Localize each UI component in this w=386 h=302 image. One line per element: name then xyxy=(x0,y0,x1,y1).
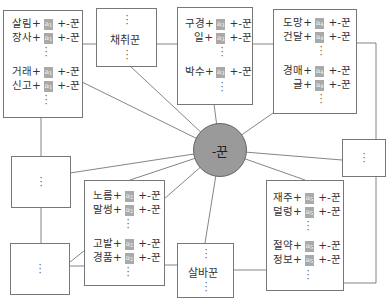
word-row: 재주+a5+-꾼 xyxy=(273,191,341,204)
word-row: 구경+a3+-꾼 xyxy=(185,17,252,30)
ellipsis-icon: ··· xyxy=(217,81,227,93)
variable-tag: a1 xyxy=(44,19,53,30)
word-row: 노름+a2+-꾼 xyxy=(93,189,161,202)
stem-word: 글+ xyxy=(282,78,312,90)
stem-word: 살림+ xyxy=(12,17,41,29)
stem-word: 거래+ xyxy=(12,65,41,77)
suffix: +-꾼 xyxy=(328,64,351,76)
variable-tag: a5 xyxy=(305,193,314,204)
word-row: 절약+a5+-꾼 xyxy=(273,239,341,252)
stem-word: 구경+ xyxy=(185,17,213,29)
ellipsis-icon: ··· xyxy=(201,281,211,293)
suffix: +-꾼 xyxy=(318,205,341,217)
ellipsis-icon: ··· xyxy=(316,93,326,105)
ellipsis-icon: ··· xyxy=(36,176,46,188)
word-row: 살림+a1+-꾼 xyxy=(12,17,80,30)
stem-word: 일+ xyxy=(185,31,213,43)
word-row: 박수+a3+-꾼 xyxy=(185,65,252,78)
group-box-left-bottom-ellipsis: ··· xyxy=(10,243,70,295)
stem-word: 경품+ xyxy=(93,251,122,263)
word-row: 고발+a2+-꾼 xyxy=(93,237,161,250)
suffix: +-꾼 xyxy=(229,17,252,29)
suffix: +-꾼 xyxy=(138,237,161,249)
ellipsis-icon: ··· xyxy=(123,266,133,278)
ellipsis-icon: ··· xyxy=(123,218,133,230)
variable-tag: a2 xyxy=(125,191,134,202)
suffix: +-꾼 xyxy=(57,31,80,43)
suffix: +-꾼 xyxy=(229,65,252,77)
stem-word: 신고+ xyxy=(12,79,41,91)
variable-tag: a2 xyxy=(125,239,134,250)
suffix: +-꾼 xyxy=(318,191,341,203)
word-row: 건달+a4+-꾼 xyxy=(282,30,351,43)
center-label: -꾼 xyxy=(212,141,229,160)
variable-tag: a4 xyxy=(315,18,324,29)
stem-word: 고발+ xyxy=(93,237,122,249)
word-label: 살바꾼 xyxy=(188,264,218,280)
suffix: +-꾼 xyxy=(328,30,351,42)
stem-word: 정보+ xyxy=(273,253,302,265)
suffix: +-꾼 xyxy=(318,253,341,265)
stem-word: 노름+ xyxy=(93,189,122,201)
group-box-chaechwi: ··· 채취꾼 ··· xyxy=(96,8,157,67)
group-box-right-ellipsis: ··· xyxy=(342,139,386,177)
suffix: +-꾼 xyxy=(138,203,161,215)
ellipsis-icon: ··· xyxy=(201,248,211,260)
group-box-a3: 구경+a3+-꾼 일+a3+-꾼 ··· 박수+a3+-꾼 ··· xyxy=(177,7,253,105)
ellipsis-icon: ··· xyxy=(122,49,132,61)
stem-word: 덜렁+ xyxy=(273,205,302,217)
group-box-a4: 도망+a4+-꾼 건달+a4+-꾼 ··· 경매+a4+-꾼 글+a4+-꾼 ·… xyxy=(273,9,357,114)
suffix: +-꾼 xyxy=(328,78,351,90)
word-row: 글+a4+-꾼 xyxy=(282,78,351,91)
center-node: -꾼 xyxy=(193,123,247,177)
variable-tag: a1 xyxy=(44,67,53,78)
suffix: +-꾼 xyxy=(57,65,80,77)
ellipsis-icon: ··· xyxy=(41,46,51,58)
suffix: +-꾼 xyxy=(138,251,161,263)
group-box-a2: 노름+a2+-꾼 말썽+a2+-꾼 ··· 고발+a2+-꾼 경품+a2+-꾼 … xyxy=(84,180,165,286)
suffix: +-꾼 xyxy=(229,31,252,43)
group-box-a1: 살림+a1+-꾼 장사+a1+-꾼 ··· 거래+a1+-꾼 신고+a1+-꾼 … xyxy=(3,10,83,118)
word-row: 경매+a4+-꾼 xyxy=(282,64,351,77)
stem-word: 박수+ xyxy=(185,65,213,77)
suffix: +-꾼 xyxy=(328,16,351,28)
word-row: 일+a3+-꾼 xyxy=(185,31,252,44)
variable-tag: a3 xyxy=(216,19,225,30)
ellipsis-icon: ··· xyxy=(41,94,51,106)
group-box-salba: ··· 살바꾼 ··· xyxy=(177,243,234,298)
suffix: +-꾼 xyxy=(318,239,341,251)
suffix: +-꾼 xyxy=(57,17,80,29)
group-box-a5: 재주+a5+-꾼 덜렁+a5+-꾼 ··· 절약+a5+-꾼 정보+a5+-꾼 … xyxy=(266,180,344,291)
stem-word: 재주+ xyxy=(273,191,302,203)
ellipsis-icon: ··· xyxy=(316,45,326,57)
ellipsis-icon: ··· xyxy=(122,14,132,26)
ellipsis-icon: ··· xyxy=(217,46,227,58)
stem-word: 장사+ xyxy=(12,31,41,43)
word-row: 도망+a4+-꾼 xyxy=(282,16,351,29)
group-box-left-mid-ellipsis: ··· xyxy=(11,156,71,208)
stem-word: 건달+ xyxy=(282,30,312,42)
stem-word: 경매+ xyxy=(282,64,312,76)
ellipsis-icon: ··· xyxy=(303,220,313,232)
variable-tag: a4 xyxy=(315,66,324,77)
stem-word: 도망+ xyxy=(282,16,312,28)
variable-tag: a5 xyxy=(305,241,314,252)
stem-word: 절약+ xyxy=(273,239,302,251)
suffix: +-꾼 xyxy=(57,79,80,91)
stem-word: 말썽+ xyxy=(93,203,122,215)
ellipsis-icon: ··· xyxy=(359,152,369,164)
ellipsis-icon: ··· xyxy=(303,269,313,281)
suffix: +-꾼 xyxy=(138,189,161,201)
word-row: 거래+a1+-꾼 xyxy=(12,65,80,78)
ellipsis-icon: ··· xyxy=(35,263,45,275)
